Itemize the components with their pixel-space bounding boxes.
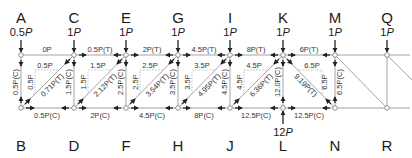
node-label: G [172, 9, 184, 26]
component-label: 3.5P [183, 74, 192, 89]
joint-J [228, 106, 233, 111]
force-label: 6.5P(C) [335, 69, 344, 95]
joint-K [281, 53, 286, 58]
force-label: 8P(T) [247, 45, 266, 54]
joint-L [281, 106, 286, 111]
component-label: 2.5P [142, 61, 157, 70]
force-label: 2.5P(C) [116, 69, 125, 95]
force-label: 12.5P(C) [241, 111, 272, 120]
joint-H [176, 106, 181, 111]
node-label: F [121, 137, 130, 154]
load-label: 1P [67, 26, 81, 38]
joint-E [124, 53, 129, 58]
component-label: 0.5P [26, 74, 35, 89]
node-label: J [226, 137, 234, 154]
bottom-node-letters: B D F H J L N R [16, 137, 393, 154]
node-label: L [279, 137, 287, 154]
force-label: 0.71P(T) [39, 71, 66, 98]
node-label: R [382, 137, 393, 154]
joint-A [19, 53, 24, 58]
force-label: 4.5P(T) [191, 45, 217, 54]
joint-G [176, 53, 181, 58]
force-label: 2P(T) [143, 45, 162, 54]
load-label: 1P [119, 26, 133, 38]
force-label: 4.5P(C) [139, 111, 165, 120]
force-label: 1.5P(C) [64, 69, 73, 95]
force-label: 12.0P(C) [273, 66, 282, 97]
joint-Q [385, 53, 390, 58]
joint-D [72, 106, 77, 111]
top-loads: 0.5P 1P 1P 1P 1P 1P 1P 1P [10, 26, 395, 38]
joint-B [19, 106, 24, 111]
force-label: 0P [42, 45, 51, 54]
component-label: 4.5P [246, 61, 261, 70]
force-label: 12.5P(C) [294, 111, 325, 120]
truss-diagram: A C E G I K M Q 0.5P 1P 1P 1P 1P 1P 1P 1… [0, 0, 412, 158]
top-node-letters: A C E G I K M Q [16, 9, 393, 26]
force-label: 0.5P(C) [34, 111, 60, 120]
node-label: Q [381, 9, 393, 26]
joint-M [333, 53, 338, 58]
force-label: 6P(T) [300, 45, 319, 54]
component-label: 6.5P [320, 74, 329, 89]
load-label: 1P [380, 26, 394, 38]
force-label: 6.36P(T) [248, 71, 275, 98]
joint-F [124, 106, 129, 111]
force-label: 0.5P(C) [11, 69, 20, 95]
component-label: 1.5P [79, 74, 88, 89]
joint-I [228, 53, 233, 58]
top-chord-force-labels: 0P 0.5P(T) 2P(T) 4.5P(T) 8P(T) 6P(T) [42, 45, 318, 54]
load-label: 1P [276, 26, 290, 38]
node-label: I [228, 9, 232, 26]
node-label: K [278, 9, 288, 26]
node-label: D [69, 137, 80, 154]
component-label: 6.5P [304, 61, 319, 70]
node-label: N [330, 137, 341, 154]
node-label: E [121, 9, 131, 26]
load-label: 1P [171, 26, 185, 38]
reaction-label: 12P [273, 126, 293, 138]
force-label: 8P(C) [194, 111, 214, 120]
joint-C [72, 53, 77, 58]
node-label: M [329, 9, 342, 26]
component-label: 0.5P [37, 61, 52, 70]
force-label: 0.5P(T) [87, 45, 113, 54]
component-label: 1.5P [90, 61, 105, 70]
joint-N [333, 106, 338, 111]
node-label: C [69, 9, 80, 26]
component-label: 4.5P [235, 74, 244, 89]
bottom-chord-force-labels: 0.5P(C) 2P(C) 4.5P(C) 8P(C) 12.5P(C) 12.… [34, 111, 324, 120]
force-label: 9.19P(T) [292, 72, 319, 99]
force-label: 4.5P(C) [220, 69, 229, 95]
force-label: 3.5P(C) [168, 69, 177, 95]
node-label: H [173, 137, 184, 154]
load-label: 0.5P [10, 26, 33, 38]
force-label: 2P(C) [90, 111, 110, 120]
load-label: 1P [328, 26, 342, 38]
joint-R [385, 106, 390, 111]
node-label: A [16, 9, 26, 26]
component-label: 2.5P [131, 74, 140, 89]
load-label: 1P [223, 26, 237, 38]
component-label: 3.5P [194, 61, 209, 70]
node-label: B [16, 137, 26, 154]
